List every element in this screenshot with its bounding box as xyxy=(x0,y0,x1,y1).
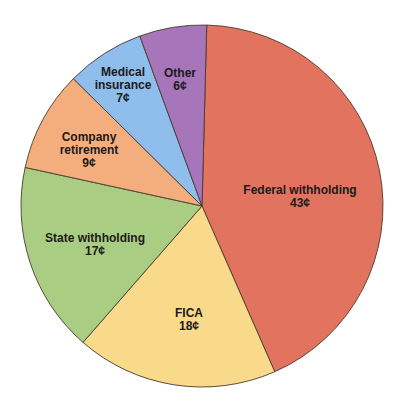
slice-label-medical-insurance: Medicalinsurance7¢ xyxy=(95,66,152,105)
slice-label-federal-withholding: Federal withholding43¢ xyxy=(243,184,356,210)
slice-label-company-retirement: Companyretirement9¢ xyxy=(60,131,119,170)
slice-value: 9¢ xyxy=(60,157,119,170)
slice-value: 6¢ xyxy=(164,80,196,93)
slice-value: 7¢ xyxy=(95,92,152,105)
slice-value: 18¢ xyxy=(175,320,203,333)
slice-label-fica: FICA18¢ xyxy=(175,307,203,333)
slice-value: 17¢ xyxy=(45,245,145,258)
slice-label-other: Other6¢ xyxy=(164,67,196,93)
slice-label-state-withholding: State withholding17¢ xyxy=(45,232,145,258)
slice-value: 43¢ xyxy=(243,197,356,210)
